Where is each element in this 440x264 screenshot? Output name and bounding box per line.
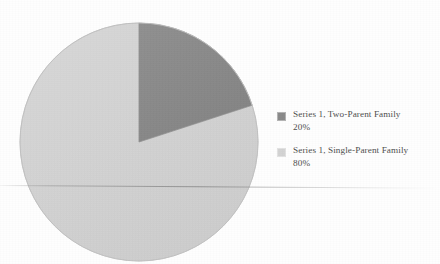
pie-chart-svg bbox=[19, 22, 259, 262]
legend-text-two-parent-family: Series 1, Two-Parent Family 20% bbox=[293, 108, 401, 133]
legend-swatch-single-parent-family bbox=[277, 148, 286, 157]
legend-label-two-parent-family: Series 1, Two-Parent Family bbox=[293, 108, 401, 121]
legend-swatch-two-parent-family bbox=[277, 112, 286, 121]
legend-text-single-parent-family: Series 1, Single-Parent Family 80% bbox=[293, 144, 408, 169]
chart-legend: Series 1, Two-Parent Family 20% Series 1… bbox=[277, 108, 437, 180]
legend-item-two-parent-family[interactable]: Series 1, Two-Parent Family 20% bbox=[277, 108, 437, 133]
legend-label-single-parent-family: Series 1, Single-Parent Family bbox=[293, 144, 408, 157]
legend-value-two-parent-family: 20% bbox=[293, 121, 401, 134]
pie-chart-figure: Series 1, Two-Parent Family 20% Series 1… bbox=[0, 0, 440, 264]
legend-item-single-parent-family[interactable]: Series 1, Single-Parent Family 80% bbox=[277, 144, 437, 169]
pie-chart bbox=[19, 22, 259, 262]
legend-value-single-parent-family: 80% bbox=[293, 157, 408, 170]
